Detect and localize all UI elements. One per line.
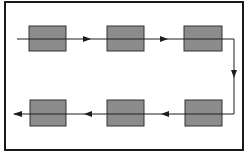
arrow-down-icon <box>231 70 237 78</box>
arrow-right-icon <box>160 36 168 42</box>
arrow-left-icon <box>13 111 22 117</box>
arrow-right-icon <box>83 36 91 42</box>
arrow-left-icon <box>84 111 92 117</box>
process-box-4 <box>185 100 222 126</box>
flow-diagram <box>0 0 249 157</box>
process-box-5 <box>107 100 144 126</box>
arrow-left-icon <box>161 111 169 117</box>
process-box-6 <box>30 100 66 126</box>
